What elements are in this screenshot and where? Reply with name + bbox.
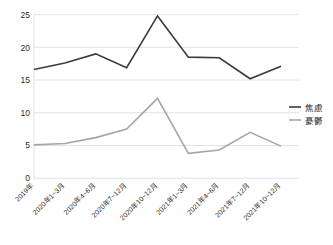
x-tick-label: 2021年1~3月 — [154, 181, 190, 217]
legend-label-anxiety: 焦慮 — [305, 103, 323, 113]
data-series — [34, 16, 281, 153]
x-tick-label: 2020年1~3月 — [31, 181, 67, 217]
x-tick-label: 2019年 — [13, 181, 35, 203]
y-tick-label: 5 — [25, 140, 30, 150]
legend: 焦慮 憂鬱 — [289, 103, 323, 126]
y-tick-label: 10 — [21, 108, 31, 118]
y-tick-label: 25 — [21, 10, 31, 20]
y-tick-label: 20 — [21, 43, 31, 53]
y-tick-label: 0 — [25, 173, 30, 183]
y-tick-label: 15 — [21, 75, 31, 85]
chart-canvas: 25 20 15 10 5 0 2019年2020年1~3月2020年4~6月2… — [0, 0, 333, 245]
line-chart: 25 20 15 10 5 0 2019年2020年1~3月2020年4~6月2… — [0, 0, 333, 245]
y-axis-tick-labels: 25 20 15 10 5 0 — [21, 10, 31, 183]
legend-label-depression: 憂鬱 — [305, 116, 323, 126]
x-axis-tick-labels: 2019年2020年1~3月2020年4~6月2020年7~12月2020年10… — [13, 181, 282, 222]
gridlines — [34, 15, 299, 179]
